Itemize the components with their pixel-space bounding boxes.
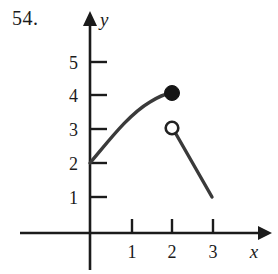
x-tick-label-2: 2 [168, 242, 177, 262]
line-segment [176, 134, 212, 197]
x-tick-label-3: 3 [209, 242, 218, 262]
graph-canvas: 1 2 3 5 4 3 2 1 y x [0, 0, 278, 274]
y-tick-label-3: 3 [69, 120, 78, 140]
x-axis-arrow-icon [258, 226, 272, 240]
math-figure: 54. 1 2 3 5 4 3 2 1 y x [0, 0, 278, 274]
open-circle-point [166, 122, 179, 135]
y-axis-label: y [98, 9, 109, 30]
y-tick-label-2: 2 [69, 154, 78, 174]
y-tick-label-5: 5 [69, 53, 78, 73]
y-axis-arrow-icon [83, 11, 97, 26]
y-tick-label-4: 4 [69, 86, 78, 106]
x-axis-label: x [249, 241, 259, 262]
y-tick-label-1: 1 [69, 188, 78, 208]
closed-circle-point [165, 86, 180, 101]
x-tick-label-1: 1 [128, 242, 137, 262]
